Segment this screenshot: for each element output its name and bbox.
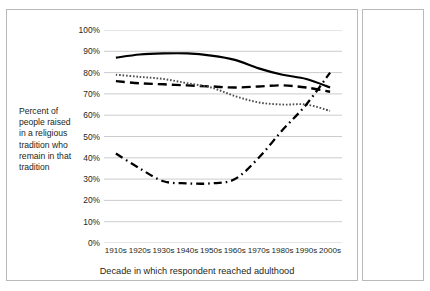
y-tick-label: 70%	[83, 89, 100, 99]
y-axis-tick-labels: 100%90%80%70%60%50%40%30%20%10%0%	[67, 30, 100, 243]
x-tick-label: 1960s	[224, 246, 246, 255]
series-canvas	[104, 30, 342, 243]
x-tick-label: 1970s	[248, 246, 270, 255]
x-tick-label: 1940s	[176, 246, 198, 255]
chart-frame: Percent of people raised in a religious …	[6, 9, 358, 281]
y-tick-label: 0%	[88, 238, 100, 248]
y-tick-label: 20%	[83, 195, 100, 205]
chart-screenshot: Percent of people raised in a religious …	[0, 0, 430, 291]
x-tick-label: 1990s	[295, 246, 317, 255]
y-tick-label: 90%	[83, 46, 100, 56]
y-tick-label: 40%	[83, 153, 100, 163]
series-line-evangelical-protestant	[116, 81, 330, 92]
y-tick-label: 100%	[79, 25, 100, 35]
x-axis-tick-labels: 1910s1920s1930s1940s1950s1960s1970s1980s…	[104, 246, 342, 260]
plot-area	[104, 30, 342, 243]
x-tick-label: 1920s	[129, 246, 151, 255]
y-tick-label: 60%	[83, 110, 100, 120]
x-tick-label: 1950s	[200, 246, 222, 255]
series-line-mainline-protestant	[116, 75, 330, 111]
y-tick-label: 80%	[83, 68, 100, 78]
x-axis-title: Decade in which respondent reached adult…	[47, 266, 347, 276]
x-tick-label: 2000s	[319, 246, 341, 255]
x-tick-label: 1980s	[271, 246, 293, 255]
series-line-none	[116, 73, 330, 184]
y-tick-label: 10%	[83, 217, 100, 227]
x-tick-label: 1930s	[152, 246, 174, 255]
legend-panel: CatholicEvangelical ProtestantMainline P…	[362, 9, 424, 281]
y-tick-label: 30%	[83, 174, 100, 184]
series-line-catholic	[116, 53, 330, 87]
x-tick-label: 1910s	[105, 246, 127, 255]
y-tick-label: 50%	[83, 132, 100, 142]
